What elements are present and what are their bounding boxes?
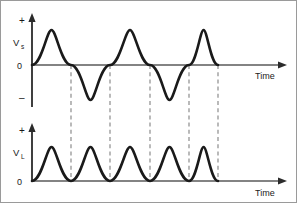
load-y-label-subscript: L: [21, 153, 25, 160]
load-plus-label: +: [19, 125, 25, 136]
source-zero-label: 0: [17, 61, 22, 71]
source-plus-label: +: [19, 15, 25, 26]
source-time-label: Time: [255, 71, 275, 81]
waveform-figure: + V s 0 – Time + V L 0 Time: [0, 0, 297, 203]
load-zero-label: 0: [17, 177, 22, 187]
waveform-diagram-canvas: + V s 0 – Time + V L 0 Time: [0, 0, 297, 203]
figure-border: [1, 1, 297, 203]
load-y-label: V: [13, 147, 20, 158]
source-minus-label: –: [19, 92, 25, 103]
load-time-label: Time: [255, 188, 275, 198]
source-y-label: V: [13, 37, 20, 48]
